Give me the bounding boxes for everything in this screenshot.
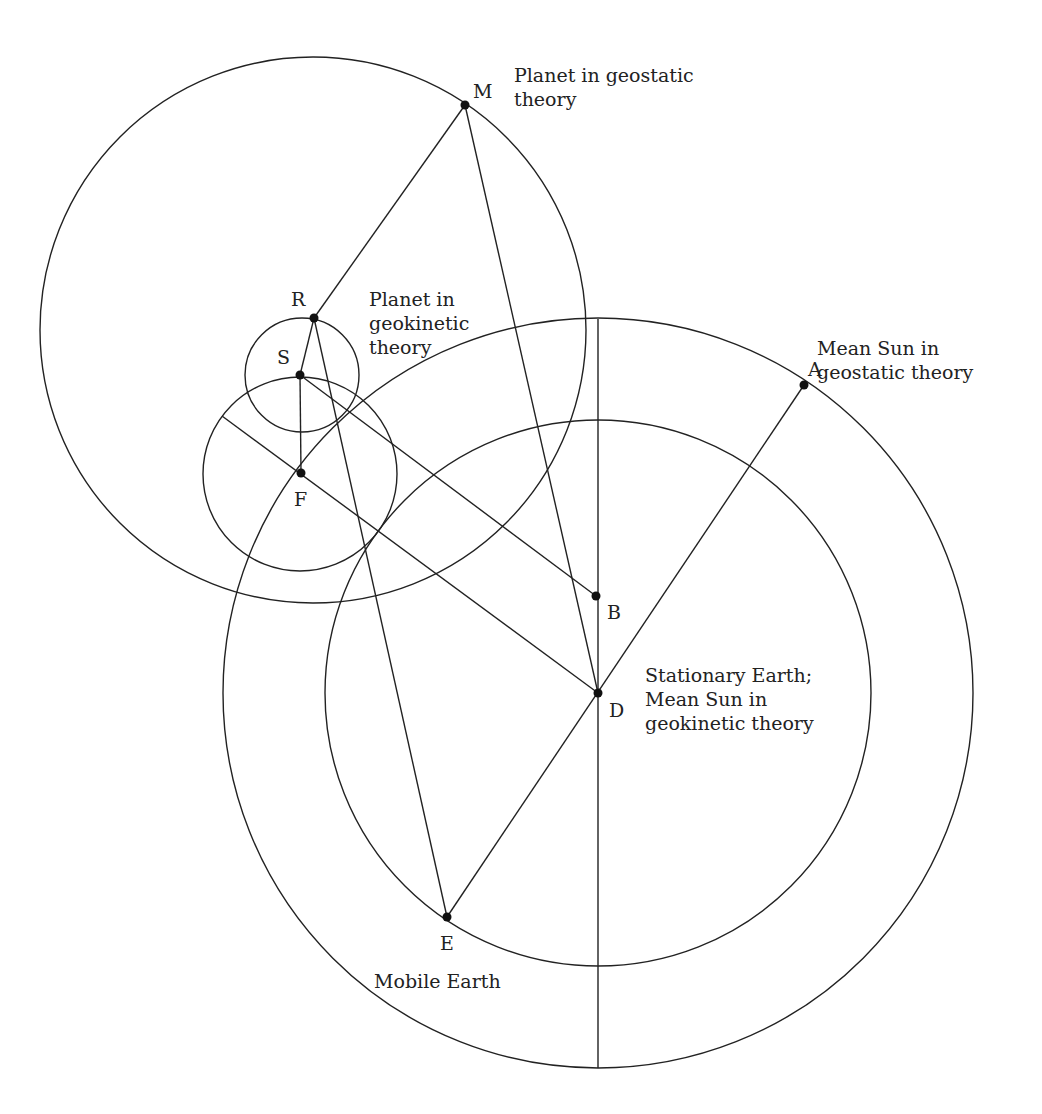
annotation-planet-geokinetic: Planet ingeokinetictheory <box>369 288 469 358</box>
point-S <box>296 371 305 380</box>
point-label-M: M <box>473 80 492 102</box>
point-label-F: F <box>294 488 307 510</box>
circles-group <box>40 57 973 1068</box>
point-label-B: B <box>607 601 621 623</box>
annotation-mean-sun-geostatic: Mean Sun ingeostatic theory <box>817 337 974 383</box>
point-label-R: R <box>291 288 306 310</box>
annotation-mobile-earth: Mobile Earth <box>374 970 501 992</box>
lines-group <box>222 105 804 1068</box>
point-A <box>800 381 809 390</box>
point-B <box>592 592 601 601</box>
astronomy-diagram: MRSFABDE Planet in geostatictheoryPlanet… <box>0 0 1042 1114</box>
point-label-E: E <box>440 932 454 954</box>
line-MR <box>314 105 465 318</box>
annotations-group: Planet in geostatictheoryPlanet ingeokin… <box>369 64 974 992</box>
line-MD <box>465 105 598 693</box>
line-SF <box>300 375 301 473</box>
annotation-planet-geostatic: Planet in geostatictheory <box>514 64 694 110</box>
point-label-S: S <box>277 346 290 368</box>
point-F <box>297 469 306 478</box>
point-M <box>461 101 470 110</box>
point-E <box>443 913 452 922</box>
line-RE <box>314 318 447 917</box>
line-RS <box>300 318 314 375</box>
line-AE <box>447 385 804 917</box>
point-label-D: D <box>609 699 624 721</box>
point-D <box>594 689 603 698</box>
point-R <box>310 314 319 323</box>
annotation-stationary-earth: Stationary Earth;Mean Sun ingeokinetic t… <box>645 664 814 734</box>
